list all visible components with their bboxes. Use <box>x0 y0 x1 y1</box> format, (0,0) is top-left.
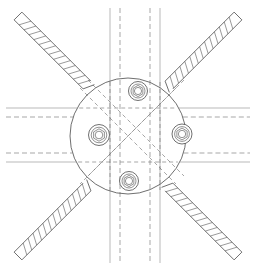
brace-lower-right-hatch <box>186 208 198 212</box>
brace-lower-right-hatch <box>181 203 193 207</box>
bolt-west[interactable] <box>89 125 110 146</box>
brace-upper-left-hatch <box>63 66 75 70</box>
brace-lower-right-hatch <box>205 227 217 231</box>
brace-lower-right-hatch <box>220 242 232 246</box>
brace-upper-left-hatch <box>54 56 66 60</box>
brace-upper-left-edge-b <box>22 12 91 81</box>
bolt-east-washer-outer <box>172 124 192 144</box>
brace-upper-right-hatch <box>205 42 209 54</box>
bolt-south-washer-outer <box>120 172 139 191</box>
brace-lower-left-hatch <box>53 213 57 225</box>
brace-lower-left-hatch <box>63 204 67 216</box>
brace-upper-left-hatch <box>34 36 46 40</box>
brace-lower-left-hatch <box>58 209 62 221</box>
brace-upper-left-taper <box>83 85 94 89</box>
brace-upper-right-hatch <box>214 32 218 44</box>
brace-upper-right-hatch <box>180 66 184 78</box>
brace-lower-left-edge-a <box>22 191 91 260</box>
brace-upper-right-hatch <box>185 61 189 73</box>
brace-lower-left-hatch <box>33 233 37 245</box>
brace-upper-right-taper <box>165 81 169 92</box>
bolt-north-washer-outer <box>129 82 148 101</box>
brace-upper-right-hatch <box>195 52 199 64</box>
brace-lower-left-hatch <box>72 194 76 206</box>
brace-upper-right-hatch <box>219 27 223 39</box>
brace-lower-right-hatch <box>176 198 188 202</box>
brace-lower-left-edge-b <box>14 183 83 252</box>
brace-lower-left-taper <box>87 180 91 191</box>
brace-lower-right-hatch <box>225 247 237 251</box>
connection-detail-svg <box>0 0 256 271</box>
brace-lower-right-hatch <box>195 218 207 222</box>
brace-lower-left <box>14 180 91 260</box>
bolt-east[interactable] <box>172 124 192 144</box>
brace-upper-left-hatch <box>78 80 90 84</box>
channel-layer <box>6 8 250 263</box>
bolt-north[interactable] <box>129 82 148 101</box>
brace-lower-right-hatch <box>210 232 222 236</box>
brace-lower-right-edge-b <box>165 191 234 260</box>
brace-upper-left <box>14 12 94 89</box>
brace-upper-left-hatch <box>49 51 61 55</box>
vertical-channel-section <box>110 8 160 263</box>
brace-upper-right-hatch <box>229 17 233 29</box>
brace-upper-left-hatch <box>29 31 41 35</box>
brace-upper-left-hatch <box>24 26 36 30</box>
brace-lower-left-hatch <box>82 184 86 196</box>
brace-upper-left-hatch <box>39 41 51 45</box>
brace-upper-left-hatch <box>58 61 70 65</box>
brace-lower-left-end-cap <box>14 252 22 260</box>
brace-lower-left-hatch <box>28 238 32 250</box>
brace-upper-right-hatch <box>224 22 228 34</box>
brace-lower-right-end-cap <box>234 252 242 260</box>
brace-lower-left-hatch <box>43 223 47 235</box>
brace-upper-right-hatch <box>170 76 174 88</box>
brace-lower-left-hatch <box>38 228 42 240</box>
brace-upper-left-hatch <box>73 75 85 79</box>
brace-lower-left-hatch <box>68 199 72 211</box>
brace-lower-right-hatch <box>171 193 183 197</box>
brace-upper-right-end-cap <box>234 12 242 20</box>
brace-upper-left-end-cap <box>14 12 22 20</box>
brace-lower-right-hatch <box>191 213 203 217</box>
brace-upper-right-edge-b <box>173 20 242 89</box>
brace-lower-right-hatch <box>215 237 227 241</box>
horizontal-channel-section <box>6 108 250 162</box>
bolt-south[interactable] <box>120 172 139 191</box>
brace-lower-right-taper <box>162 183 173 187</box>
brace-upper-right-hatch <box>209 37 213 49</box>
brace-upper-right <box>165 12 242 92</box>
brace-upper-right-hatch <box>200 47 204 59</box>
brace-lower-right-hatch <box>200 223 212 227</box>
brace-lower-right-hatch <box>166 188 178 192</box>
brace-upper-left-hatch <box>19 21 31 25</box>
brace-lower-left-hatch <box>23 243 27 255</box>
brace-upper-right-hatch <box>190 56 194 68</box>
brace-lower-right <box>162 183 242 260</box>
brace-upper-left-hatch <box>44 46 56 50</box>
cad-drawing-canvas: Structural Connection Detail <box>0 0 256 271</box>
brace-lower-left-hatch <box>77 189 81 201</box>
bolt-west-washer-outer <box>89 125 110 146</box>
brace-upper-right-hatch <box>175 71 179 83</box>
brace-upper-left-hatch <box>68 70 80 74</box>
brace-lower-left-hatch <box>48 218 52 230</box>
bolt-layer <box>89 82 193 191</box>
